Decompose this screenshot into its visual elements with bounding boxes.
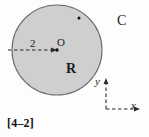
- region-label: R: [66, 62, 76, 76]
- figure-caption: [4–2]: [7, 116, 34, 131]
- center-point-dot: [55, 48, 58, 51]
- center-point-label: O: [57, 37, 65, 48]
- boundary-point-dot: [78, 17, 81, 20]
- x-axis-label: x: [131, 100, 136, 111]
- radius-length-label: 2: [30, 38, 36, 49]
- figure-container: 2 O C R y x [4–2]: [0, 0, 149, 137]
- boundary-curve-label: C: [117, 14, 126, 28]
- y-axis-label: y: [95, 76, 100, 87]
- y-axis-arrowhead-icon: [104, 78, 109, 84]
